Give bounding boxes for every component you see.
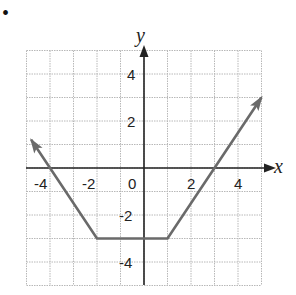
x-tick-label: 4 bbox=[234, 175, 242, 192]
y-tick-label: -2 bbox=[119, 207, 132, 224]
y-tick-label: -4 bbox=[119, 254, 132, 271]
y-axis-label: y bbox=[134, 24, 145, 47]
y-tick-label: 2 bbox=[127, 113, 135, 130]
function-curve bbox=[30, 96, 263, 239]
x-tick-label: 2 bbox=[187, 175, 195, 192]
y-axis bbox=[140, 45, 149, 285]
function-graph: x y -4 -2 0 2 4 4 2 -2 -4 bbox=[0, 0, 296, 295]
x-tick-label: 0 bbox=[128, 175, 136, 192]
x-tick-label: -4 bbox=[34, 175, 47, 192]
x-tick-label: -2 bbox=[82, 175, 95, 192]
curve-arrow-icon bbox=[30, 138, 42, 153]
x-axis-label: x bbox=[273, 155, 283, 177]
curve-arrow-icon bbox=[250, 96, 262, 111]
y-tick-label: 4 bbox=[127, 66, 135, 83]
